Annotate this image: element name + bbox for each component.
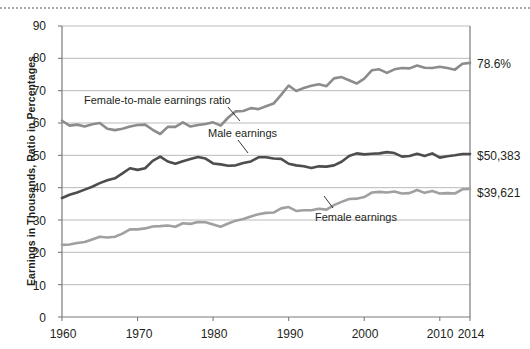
end-label-female: $39,621: [477, 186, 520, 200]
y-tick-50: 50: [18, 149, 46, 163]
end-label-ratio: 78.6%: [477, 57, 511, 71]
x-tick-2014: 2014: [451, 327, 491, 341]
x-tick-1990: 1990: [270, 327, 310, 341]
x-tick-1960: 1960: [43, 327, 83, 341]
y-tick-20: 20: [18, 246, 46, 260]
y-tick-30: 30: [18, 214, 46, 228]
y-tick-10: 10: [18, 279, 46, 293]
x-tick-1980: 1980: [194, 327, 234, 341]
end-label-male: $50,383: [477, 149, 520, 163]
series-annotation-female: Female earnings: [315, 211, 397, 223]
y-tick-0: 0: [18, 311, 46, 325]
series-lines: [62, 63, 470, 245]
x-tick-2000: 2000: [345, 327, 385, 341]
plot-area: [0, 0, 530, 349]
series-annotation-male: Male earnings: [208, 127, 277, 139]
y-tick-80: 80: [18, 51, 46, 65]
y-tick-90: 90: [18, 19, 46, 33]
annotation-leader-lines: [228, 107, 333, 208]
series-annotation-ratio: Female-to-male earnings ratio: [84, 94, 231, 106]
y-tick-60: 60: [18, 116, 46, 130]
y-tick-40: 40: [18, 181, 46, 195]
y-tick-70: 70: [18, 84, 46, 98]
chart-container: Earnings in Thousands, Ratio in Percenta…: [0, 0, 530, 349]
x-tick-1970: 1970: [119, 327, 159, 341]
axis-ticks: [58, 26, 470, 321]
